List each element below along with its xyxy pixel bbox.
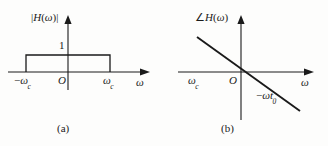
- phase-slope-annotation: −ωt0: [256, 90, 277, 104]
- y-axis-label-a: |H(ω)|: [31, 12, 58, 23]
- x-tick-omega-c-b: ωc: [188, 75, 199, 89]
- angle-symbol-b: ∠: [195, 11, 205, 23]
- x-axis-arrow-b: [304, 68, 314, 75]
- omega-symbol-a: ω: [45, 11, 53, 23]
- x-tick-positive-omega-c: ωc: [103, 75, 114, 89]
- paren-close-b: ): [224, 11, 228, 23]
- omega-t-base-b: ωt: [262, 89, 273, 101]
- y-value-label-one: 1: [59, 40, 65, 51]
- h-symbol-b: H: [205, 11, 213, 23]
- origin-label-b: O: [229, 75, 237, 86]
- x-axis-label-b: ω: [301, 77, 309, 88]
- panel-b-graphics: [164, 0, 328, 146]
- omega-subscript-a-right: c: [110, 82, 113, 91]
- origin-label-a: O: [58, 75, 66, 86]
- panel-magnitude-response: |H(ω)| 1 O −ωc ωc ω (a): [0, 0, 164, 146]
- panel-a-graphics: [0, 0, 164, 146]
- x-tick-negative-omega-c: −ωc: [14, 75, 31, 89]
- panel-phase-response: ∠H(ω) ωc O ω −ωt0 (b): [164, 0, 328, 146]
- omega-base-a-left: ω: [20, 74, 28, 86]
- y-axis-arrow-b: [237, 15, 244, 24]
- y-axis-arrow-a: [64, 15, 71, 24]
- y-axis-label-b: ∠H(ω): [195, 12, 228, 23]
- x-axis-arrow-a: [140, 68, 150, 75]
- t-subscript-zero-b: 0: [273, 97, 277, 106]
- x-axis-label-a: ω: [136, 77, 144, 88]
- h-symbol-a: H: [33, 11, 41, 23]
- phase-line-b: [197, 37, 300, 111]
- figure-container: |H(ω)| 1 O −ωc ωc ω (a) ∠H(ω) ωc: [0, 0, 328, 146]
- caption-b: (b): [221, 123, 234, 134]
- omega-subscript-a-left: c: [28, 82, 31, 91]
- omega-subscript-b-left: c: [195, 82, 198, 91]
- caption-a: (a): [57, 123, 69, 134]
- bar-close-a: |: [56, 11, 58, 23]
